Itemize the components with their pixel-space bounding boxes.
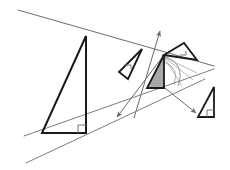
diagram-canvas — [0, 0, 230, 170]
diagram-background — [0, 0, 230, 170]
geometry-svg — [0, 0, 230, 170]
